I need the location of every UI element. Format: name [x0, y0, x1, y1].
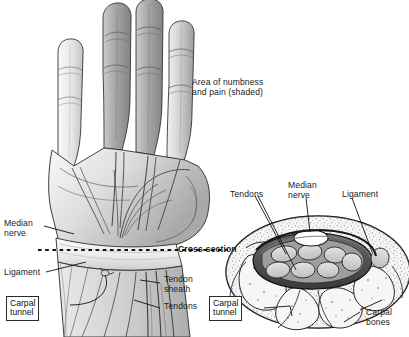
hand-label-ligament: Ligament — [4, 268, 40, 278]
finger-middle-shaded — [136, 0, 163, 155]
section-label-carpal-tunnel-box: Carpal tunnel — [209, 296, 242, 321]
hand-label-tendon-sheath: Tendon sheath — [164, 275, 193, 294]
finger-little — [58, 39, 83, 166]
section-label-tendons: Tendons — [230, 190, 263, 200]
carpal-tunnel-figure: Area of numbness and pain (shaded) Cross… — [0, 0, 409, 337]
finger-index-shaded — [103, 3, 131, 150]
numbness-note: Area of numbness and pain (shaded) — [192, 78, 263, 97]
section-label-ligament: Ligament — [342, 190, 378, 200]
hand-label-tendons: Tendons — [164, 302, 197, 312]
finger-ring-shaded — [167, 21, 194, 161]
cross-section-label: Cross-section — [178, 245, 237, 255]
illustration-canvas — [0, 0, 409, 337]
hand-label-median-nerve: Median nerve — [4, 219, 33, 238]
hand-label-carpal-tunnel-box: Carpal tunnel — [6, 296, 39, 321]
section-label-median-nerve: Median nerve — [288, 181, 317, 200]
section-label-carpal-bones: Carpal bones — [366, 308, 392, 327]
